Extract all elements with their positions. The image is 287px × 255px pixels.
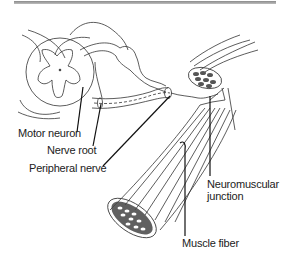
upper-muscle-bundle — [186, 35, 258, 92]
label-neuromuscular-junction-line1: Neuromuscular — [207, 178, 279, 190]
label-peripheral-nerve: Peripheral nerve — [29, 162, 107, 174]
label-muscle-fiber: Muscle fiber — [182, 237, 239, 249]
nerve-root — [92, 88, 172, 109]
label-motor-neuron: Motor neuron — [18, 127, 81, 139]
peripheral-nerve-fiber — [171, 93, 218, 98]
leader-motor-neuron — [77, 87, 83, 132]
leader-nerve-root — [93, 104, 101, 146]
spinal-cord — [18, 22, 128, 118]
leader-peripheral-nerve — [103, 96, 170, 166]
label-neuromuscular-junction-line2: junction — [207, 190, 243, 202]
muscle-fiber-bundle — [101, 88, 236, 246]
label-nerve-root: Nerve root — [47, 144, 96, 156]
dorsal-root-ganglion — [80, 43, 166, 98]
